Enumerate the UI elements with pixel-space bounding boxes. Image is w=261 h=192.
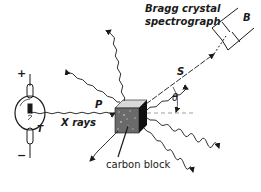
compton-diagram: Bragg crystal spectrograph B S θ P X ray… — [0, 0, 261, 192]
primary-ray-label: P — [95, 100, 102, 110]
angle-label: θ — [172, 93, 178, 103]
spectrograph-letter: B — [243, 13, 251, 23]
scattered-ray-label: S — [177, 67, 184, 77]
carbon-block-label: carbon block — [106, 160, 170, 170]
primary-beam — [31, 112, 115, 114]
scattered-beam — [146, 54, 214, 104]
minus-terminal: − — [17, 150, 26, 161]
plus-terminal: + — [17, 68, 26, 79]
xrays-label: X rays — [61, 118, 96, 128]
xray-tube — [15, 74, 45, 158]
spectrograph-label-line2: spectrograph — [145, 17, 221, 27]
tube-label: T — [37, 125, 43, 134]
carbon-block — [115, 100, 147, 133]
spectrograph-label-line1: Bragg crystal — [145, 4, 220, 14]
